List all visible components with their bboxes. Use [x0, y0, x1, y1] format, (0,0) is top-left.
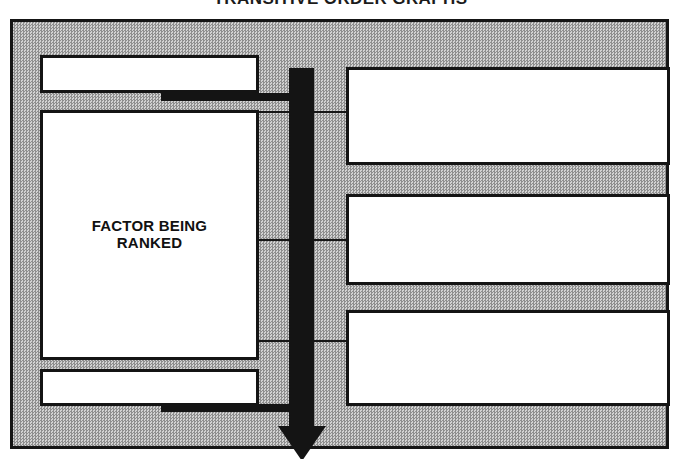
connector-bar-top [161, 93, 301, 101]
right-box-1[interactable] [346, 67, 670, 165]
factor-being-ranked-label: FACTOR BEING RANKED [43, 218, 256, 252]
left-box-top[interactable] [40, 55, 259, 93]
connector-bar-bottom [161, 404, 301, 412]
down-arrow-head-icon [278, 426, 326, 459]
right-box-3[interactable] [346, 310, 670, 406]
diagram-canvas: TRANSITIVE ORDER GRAPHS FACTOR BEING RAN… [0, 0, 681, 459]
diagram-panel: FACTOR BEING RANKED [10, 19, 669, 449]
down-arrow-shaft-icon [289, 68, 314, 432]
left-box-bottom[interactable] [40, 369, 259, 406]
right-box-2[interactable] [346, 194, 670, 285]
page-title: TRANSITIVE ORDER GRAPHS [0, 0, 681, 10]
left-box-main[interactable]: FACTOR BEING RANKED [40, 110, 259, 360]
